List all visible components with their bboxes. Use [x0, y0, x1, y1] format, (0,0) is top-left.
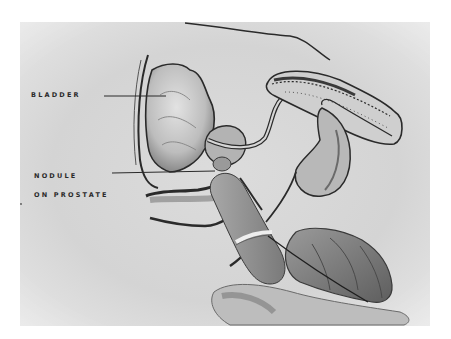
nodule-leader-line [112, 171, 215, 173]
prostate-label: ON PROSTATE [34, 191, 109, 199]
nodule-label: NODULE [34, 172, 77, 180]
gloved-hand [286, 228, 393, 302]
prostate-nodule [213, 157, 231, 171]
anatomical-illustration [0, 0, 451, 339]
abdomen-outline [185, 23, 330, 60]
rectum-lower-wall [150, 218, 228, 226]
bladder [146, 64, 215, 172]
bladder-label: BLADDER [31, 91, 81, 99]
